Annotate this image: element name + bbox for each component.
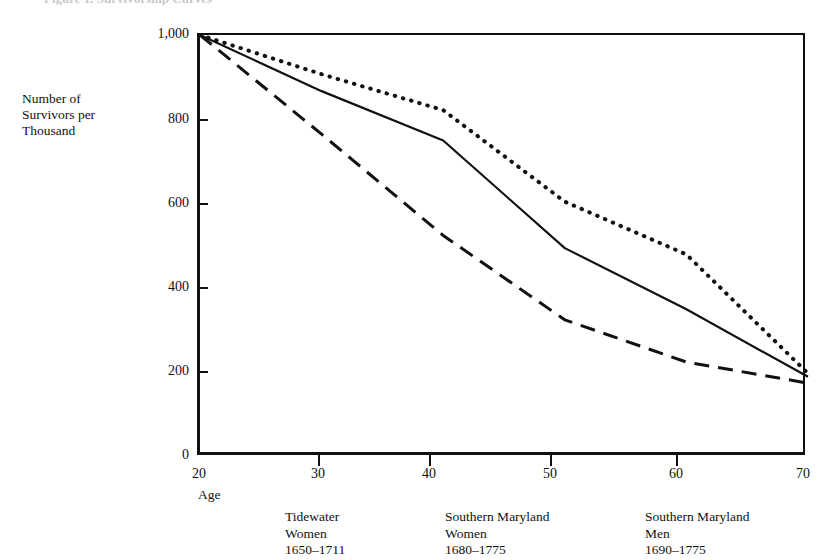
legend-item-line-2: Men — [645, 526, 750, 543]
legend-item-line-2: Women — [445, 526, 550, 543]
legend-item-line-3: 1680–1775 — [445, 542, 550, 559]
legend-item-line-3: 1690–1775 — [645, 542, 750, 559]
legend-item-southern-maryland-men: Southern Maryland Men 1690–1775 — [645, 509, 750, 559]
survivorship-curves-figure: Figure 1. Survivorship Curves Number of … — [0, 0, 830, 560]
legend: Tidewater Women 1650–1711 Southern Maryl… — [0, 0, 830, 560]
legend-item-line-3: 1650–1711 — [285, 542, 345, 559]
legend-item-southern-maryland-women: Southern Maryland Women 1680–1775 — [445, 509, 550, 559]
legend-item-tidewater-women: Tidewater Women 1650–1711 — [285, 509, 345, 559]
legend-item-line-1: Tidewater — [285, 509, 345, 526]
legend-item-line-1: Southern Maryland — [645, 509, 750, 526]
legend-item-line-1: Southern Maryland — [445, 509, 550, 526]
legend-item-line-2: Women — [285, 526, 345, 543]
